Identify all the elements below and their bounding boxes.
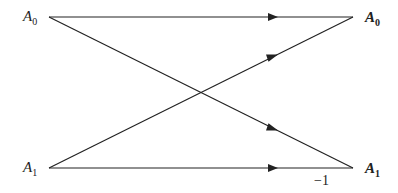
arrowhead-icon [266,54,278,61]
edge-in0-out0 [49,13,353,21]
coefficient-label: −1 [314,174,329,188]
input-label-a0: A0 [23,9,37,27]
output-label-a1: A1 [365,161,380,179]
edge-in1-out1 [49,164,353,172]
arrowhead-icon [266,123,278,130]
output-label-a0: A0 [365,10,380,28]
butterfly-diagram [0,0,398,193]
input-label-a1: A1 [23,160,37,178]
arrowhead-icon [268,164,278,172]
arrowhead-icon [268,13,278,21]
